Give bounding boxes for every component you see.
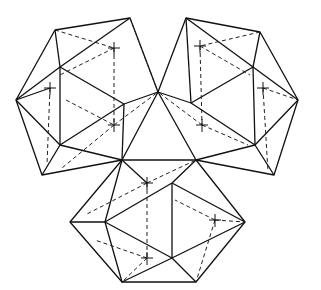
bottom-polyhedron	[70, 160, 245, 282]
right-polyhedron	[158, 18, 298, 175]
left-polyhedron	[16, 18, 158, 175]
hidden-vertex-marker	[194, 40, 269, 132]
polyhedra-diagram	[0, 0, 321, 290]
hidden-vertex-marker	[141, 177, 221, 265]
hidden-vertex-marker	[44, 42, 120, 132]
